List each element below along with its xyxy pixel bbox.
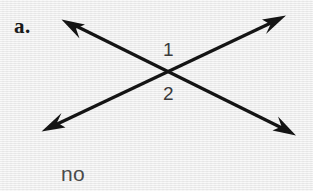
figure-panel: a. 1 2 no bbox=[0, 0, 313, 191]
line-sw-ne-shaft bbox=[53, 21, 275, 126]
angle-label-1: 1 bbox=[163, 40, 174, 59]
intersecting-lines-diagram bbox=[0, 0, 313, 191]
line-nw-se bbox=[62, 20, 297, 136]
line-sw-ne bbox=[42, 16, 287, 132]
angle-label-2: 2 bbox=[163, 84, 174, 103]
answer-text: no bbox=[61, 163, 85, 184]
line-nw-se-shaft bbox=[72, 24, 286, 130]
part-label: a. bbox=[14, 16, 31, 37]
